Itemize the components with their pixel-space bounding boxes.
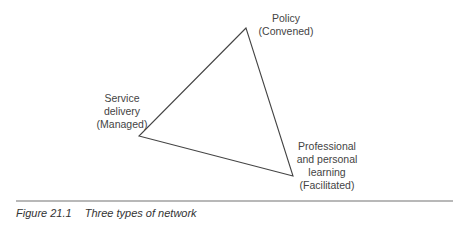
figure-caption: Figure 21.1 Three types of network: [16, 207, 197, 219]
figure-number: Figure 21.1: [16, 207, 72, 219]
node-label-line: Professional: [287, 140, 367, 153]
network-triangle-diagram: [0, 0, 453, 226]
caption-divider: [16, 200, 453, 202]
node-label-policy: Policy (Convened): [246, 12, 326, 38]
node-label-line: learning: [287, 166, 367, 179]
node-label-service-delivery: Service delivery (Managed): [82, 92, 162, 131]
node-label-line: delivery: [82, 105, 162, 118]
node-label-line: Service: [82, 92, 162, 105]
node-label-line: (Facilitated): [287, 179, 367, 192]
node-label-line: Policy: [246, 12, 326, 25]
node-label-line: (Convened): [246, 25, 326, 38]
node-label-line: and personal: [287, 153, 367, 166]
node-label-line: (Managed): [82, 118, 162, 131]
node-label-professional-learning: Professional and personal learning (Faci…: [287, 140, 367, 192]
figure-title: Three types of network: [85, 207, 197, 219]
triangle-shape: [139, 28, 293, 176]
